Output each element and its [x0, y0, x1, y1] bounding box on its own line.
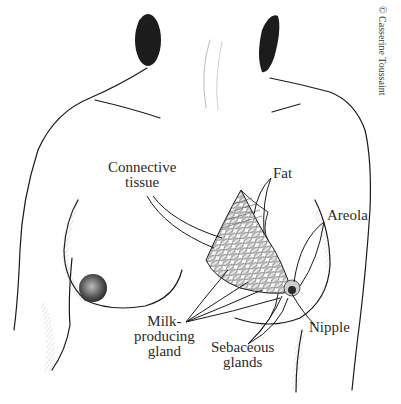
label-fat: Fat [273, 166, 292, 181]
copyright-notice: © Casserine Toussaint [377, 6, 388, 95]
label-line: Connective [108, 160, 176, 175]
breast-anatomy-figure: Connective tissue Fat Areola Nipple Milk… [0, 0, 401, 404]
label-line: Nipple [309, 320, 350, 335]
label-areola: Areola [327, 208, 368, 223]
label-line: Sebaceous [211, 340, 274, 355]
label-line: Milk- [134, 314, 195, 329]
left-armpit-hair [135, 14, 161, 66]
illustration-drawing [0, 0, 401, 404]
left-areola [79, 274, 107, 302]
label-line: tissue [108, 175, 176, 190]
label-nipple: Nipple [309, 320, 350, 335]
label-line: gland [134, 344, 195, 359]
right-armpit-hair [259, 15, 279, 72]
label-connective-tissue: Connective tissue [108, 160, 176, 190]
label-milk-producing-gland: Milk- producing gland [134, 314, 195, 359]
label-sebaceous-glands: Sebaceous glands [211, 340, 274, 370]
label-line: producing [134, 329, 195, 344]
label-line: Fat [273, 166, 292, 181]
label-line: glands [211, 355, 274, 370]
label-line: Areola [327, 208, 368, 223]
